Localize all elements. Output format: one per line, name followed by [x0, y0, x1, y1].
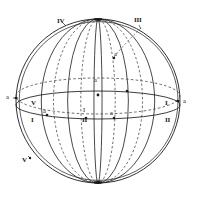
label-roman-iv-top-left: IV	[57, 18, 64, 25]
label-point-a-upper-right: a	[114, 51, 117, 58]
label-roman-ii-center: II	[82, 117, 87, 124]
meridian-dashed-outer	[53, 19, 142, 183]
sphere-outline-group	[16, 19, 180, 183]
north-pole-node	[94, 18, 103, 21]
oblique-dashed-arc	[114, 28, 141, 57]
label-roman-v-lower-left: V	[22, 157, 27, 164]
marker-dot-right-band	[113, 117, 116, 120]
label-roman-ii-right: II	[165, 117, 170, 124]
label-point-a-right-band: a	[110, 110, 113, 117]
label-point-i-center: I	[83, 107, 85, 114]
marker-dot-center-equator	[97, 94, 100, 97]
meridians-solid-group	[41, 19, 154, 183]
sphere-outline-outer	[16, 19, 180, 183]
meridian-solid-center	[94, 19, 102, 183]
marker-dot-left-band	[46, 114, 49, 117]
meridian-solid-left-outer	[41, 19, 154, 183]
leader-line-roman-iii	[139, 25, 141, 29]
label-roman-i-left-lower: I	[31, 117, 34, 124]
sphere-outline-inner	[19, 22, 178, 181]
label-point-a-center-upper: a	[94, 77, 97, 84]
south-pole-node	[94, 181, 103, 184]
meridians-dashed-group	[53, 19, 142, 183]
marker-dot-dashed-right	[126, 90, 129, 93]
meridian-solid-left-inner	[68, 19, 129, 183]
label-point-a-left-band: a	[43, 108, 46, 115]
label-roman-i-right: I	[165, 100, 168, 107]
label-roman-iii-top-right: III	[134, 17, 142, 24]
label-roman-v-left-mid: V	[31, 100, 36, 107]
sphere-diagram: IV III V I I II II V a a a a a a I	[0, 0, 197, 197]
label-point-a-left-edge: a	[6, 94, 9, 101]
meridian-dashed-inner	[81, 19, 115, 183]
label-point-a-right-edge: a	[183, 98, 186, 105]
